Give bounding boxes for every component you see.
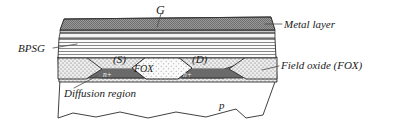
metal-layer [60, 17, 275, 30]
diffusion-region-label: Diffusion region [64, 88, 136, 99]
fox-block-label: FOX [134, 64, 153, 74]
source-label: (S) [113, 54, 126, 65]
nplus-right-label: n+ [183, 71, 192, 79]
gate-label: G [156, 4, 165, 16]
metal-layer-label: Metal layer [284, 19, 335, 30]
substrate-label: p [219, 100, 225, 111]
bpsg-layer [58, 38, 276, 58]
field-oxide-label: Field oxide (FOX) [281, 60, 362, 71]
oxide-interlayer [59, 33, 275, 38]
bpsg-label: BPSG [18, 43, 45, 54]
nplus-left-label: n+ [103, 71, 112, 79]
drain-label: (D) [192, 54, 207, 65]
